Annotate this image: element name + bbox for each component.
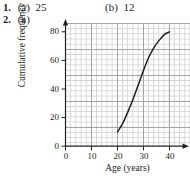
x-tick-label-30: 30 bbox=[134, 152, 154, 161]
x-tick-label-40: 40 bbox=[160, 152, 180, 161]
cumulative-frequency-chart: 0 20 40 60 80 0 10 20 30 40 Cumulative f… bbox=[0, 0, 190, 178]
x-axis bbox=[65, 144, 189, 149]
x-axis-label: Age (years) bbox=[65, 163, 190, 174]
y-tick-label-0: 0 bbox=[37, 142, 59, 151]
y-tick-label-20: 20 bbox=[37, 113, 59, 122]
x-tick-label-10: 10 bbox=[82, 152, 102, 161]
y-tick-label-60: 60 bbox=[37, 56, 59, 65]
x-tick-label-0: 0 bbox=[56, 152, 76, 161]
y-axis-label: Cumulative frequency bbox=[17, 0, 27, 95]
x-axis-ticks bbox=[66, 146, 170, 150]
x-tick-label-20: 20 bbox=[108, 152, 128, 161]
y-tick-label-40: 40 bbox=[37, 85, 59, 94]
cumulative-frequency-curve bbox=[118, 32, 170, 132]
y-tick-label-80: 80 bbox=[37, 27, 59, 36]
y-axis bbox=[63, 19, 68, 146]
